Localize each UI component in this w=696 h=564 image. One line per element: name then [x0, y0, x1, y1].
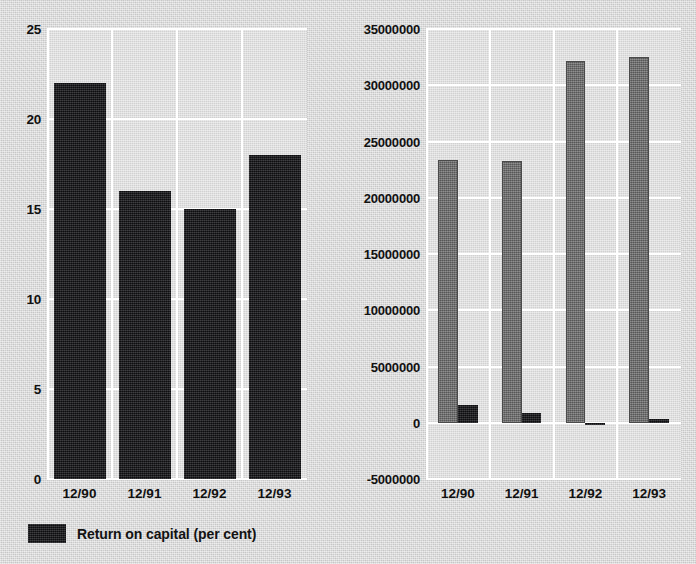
chart-panel-return-on-capital: 0510152025 Return on capital (per cent) …: [0, 0, 348, 564]
gridline-vertical: [111, 29, 113, 479]
legend-label-return-on-capital: Return on capital (per cent): [77, 526, 256, 542]
y-axis-tick-label: 15: [26, 202, 41, 217]
bar: [585, 423, 605, 425]
y-axis-tick-label: 5000000: [371, 359, 420, 374]
x-axis-tick-label: 12/90: [63, 486, 97, 501]
gridline-vertical: [176, 29, 178, 479]
plot-area-left: [47, 29, 307, 479]
y-axis-line: [47, 29, 49, 479]
y-axis-tick-label: 0: [34, 472, 41, 487]
bar: [522, 413, 542, 423]
bar: [566, 61, 586, 423]
y-axis-tick-label: 10: [26, 292, 41, 307]
x-axis-tick-label: 12/91: [505, 486, 539, 501]
x-axis-tick-label: 12/92: [568, 486, 602, 501]
legend-swatch-return-on-capital: [28, 524, 66, 543]
bar: [649, 419, 669, 422]
bar: [502, 161, 522, 423]
y-axis-tick-label: 20000000: [364, 190, 420, 205]
gridline-vertical: [241, 29, 243, 479]
bar: [184, 209, 236, 479]
y-axis-tick-label: 35000000: [364, 22, 420, 37]
x-axis-tick-label: 12/92: [193, 486, 227, 501]
gridline-vertical: [616, 29, 618, 479]
x-axis-tick-label: 12/90: [441, 486, 475, 501]
plot-area-right: [426, 29, 681, 479]
y-axis-tick-label: 10000000: [364, 303, 420, 318]
y-axis-line: [426, 29, 428, 479]
gridline-vertical: [489, 29, 491, 479]
legend-left: Return on capital (per cent): [28, 524, 256, 543]
y-axis-tick-label: 30000000: [364, 78, 420, 93]
bar: [54, 83, 106, 479]
bar: [119, 191, 171, 479]
bar: [458, 405, 478, 422]
y-axis-tick-label: 0: [413, 415, 420, 430]
y-axis-tick-label: -5000000: [367, 472, 420, 487]
x-axis-tick-label: 12/93: [632, 486, 666, 501]
y-axis-tick-label: 15000000: [364, 247, 420, 262]
gridline-vertical: [553, 29, 555, 479]
y-axis-right: -500000005000000100000001500000020000000…: [348, 29, 420, 479]
y-axis-tick-label: 25: [26, 22, 41, 37]
y-axis-tick-label: 20: [26, 112, 41, 127]
bar: [438, 160, 458, 423]
y-axis-tick-label: 25000000: [364, 134, 420, 149]
x-axis-tick-label: 12/91: [128, 486, 162, 501]
legend-entry-return-on-capital: Return on capital (per cent): [28, 524, 256, 543]
y-axis-left: 0510152025: [0, 29, 41, 479]
y-axis-tick-label: 5: [34, 382, 41, 397]
bar: [249, 155, 301, 479]
x-axis-tick-label: 12/93: [258, 486, 292, 501]
bar: [629, 57, 649, 423]
